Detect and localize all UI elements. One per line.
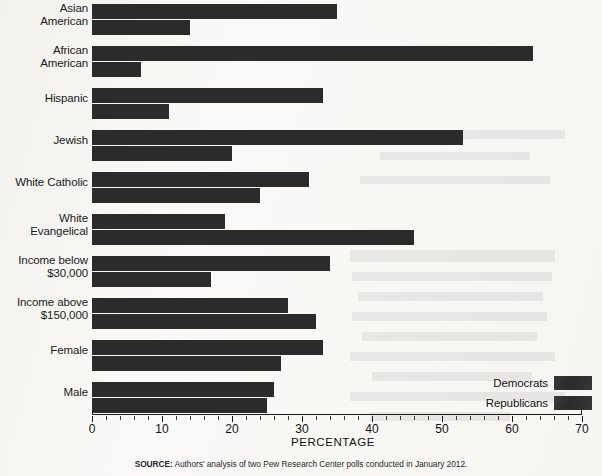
x-axis-minor-tick	[386, 416, 387, 420]
bar-democrats	[92, 172, 309, 187]
x-axis-tick-label: 10	[155, 422, 168, 436]
x-axis-tick-label: 40	[365, 422, 378, 436]
x-axis: 010203040506070	[92, 414, 582, 415]
legend-label-democrats: Democrats	[493, 377, 548, 389]
x-axis-tick-label: 50	[435, 422, 448, 436]
x-axis-title: PERCENTAGE	[0, 436, 602, 448]
bar-democrats	[92, 382, 274, 397]
source-label: SOURCE:	[135, 459, 173, 469]
legend-label-republicans: Republicans	[486, 397, 548, 409]
bar-group	[92, 298, 582, 329]
x-axis-minor-tick	[316, 416, 317, 420]
x-axis-title-text: PERCENTAGE	[291, 436, 375, 448]
x-axis-minor-tick	[456, 416, 457, 420]
plot-area	[92, 0, 582, 414]
x-axis-minor-tick	[218, 416, 219, 420]
x-axis-minor-tick	[554, 416, 555, 420]
category-label: Hispanic	[0, 92, 88, 105]
x-axis-minor-tick	[540, 416, 541, 420]
x-axis-minor-tick	[204, 416, 205, 420]
bar-republicans	[92, 272, 211, 287]
bar-group	[92, 88, 582, 119]
bar-democrats	[92, 46, 533, 61]
bar-republicans	[92, 146, 232, 161]
bar-democrats	[92, 88, 323, 103]
x-axis-minor-tick	[428, 416, 429, 420]
x-axis-minor-tick	[400, 416, 401, 420]
source-text: Authors' analysis of two Pew Research Ce…	[173, 459, 468, 469]
bar-republicans	[92, 104, 169, 119]
x-axis-minor-tick	[414, 416, 415, 420]
bar-group	[92, 340, 582, 371]
x-axis-minor-tick	[526, 416, 527, 420]
x-axis-minor-tick	[190, 416, 191, 420]
bar-democrats	[92, 298, 288, 313]
bar-republicans	[92, 62, 141, 77]
x-axis-tick-label: 0	[89, 422, 96, 436]
legend-swatch-democrats	[554, 376, 592, 390]
x-axis-minor-tick	[498, 416, 499, 420]
bar-republicans	[92, 314, 316, 329]
category-label: Income above $150,000	[0, 296, 88, 321]
bar-republicans	[92, 20, 190, 35]
horizontal-bar-chart: Asian AmericanAfrican AmericanHispanicJe…	[0, 0, 602, 476]
category-label: White Catholic	[0, 176, 88, 189]
legend-swatch-republicans	[554, 396, 592, 410]
x-axis-minor-tick	[134, 416, 135, 420]
bar-democrats	[92, 256, 330, 271]
bar-group	[92, 256, 582, 287]
category-label: Male	[0, 386, 88, 399]
bar-republicans	[92, 356, 281, 371]
category-label: Jewish	[0, 134, 88, 147]
bar-republicans	[92, 398, 267, 413]
chart-legend: Democrats Republicans	[470, 374, 592, 414]
bar-group	[92, 46, 582, 77]
bar-group	[92, 172, 582, 203]
source-note: SOURCE: Authors' analysis of two Pew Res…	[0, 459, 602, 469]
x-axis-minor-tick	[470, 416, 471, 420]
bar-democrats	[92, 340, 323, 355]
x-axis-minor-tick	[288, 416, 289, 420]
bar-republicans	[92, 230, 414, 245]
category-label: Female	[0, 344, 88, 357]
bar-democrats	[92, 130, 463, 145]
category-label: Income below $30,000	[0, 254, 88, 279]
x-axis-minor-tick	[484, 416, 485, 420]
bar-group	[92, 130, 582, 161]
bar-republicans	[92, 188, 260, 203]
x-axis-minor-tick	[568, 416, 569, 420]
x-axis-minor-tick	[246, 416, 247, 420]
x-axis-tick-label: 20	[225, 422, 238, 436]
x-axis-tick-label: 60	[505, 422, 518, 436]
x-axis-minor-tick	[330, 416, 331, 420]
x-axis-minor-tick	[260, 416, 261, 420]
legend-item-republicans: Republicans	[470, 394, 592, 411]
x-axis-tick-label: 70	[575, 422, 588, 436]
bar-group	[92, 214, 582, 245]
x-axis-minor-tick	[344, 416, 345, 420]
legend-item-democrats: Democrats	[470, 374, 592, 391]
x-axis-line	[92, 414, 582, 415]
category-label: Asian American	[0, 2, 88, 27]
x-axis-minor-tick	[148, 416, 149, 420]
x-axis-minor-tick	[106, 416, 107, 420]
x-axis-minor-tick	[358, 416, 359, 420]
category-axis-labels: Asian AmericanAfrican AmericanHispanicJe…	[0, 0, 88, 420]
x-axis-minor-tick	[274, 416, 275, 420]
category-label: African American	[0, 44, 88, 69]
x-axis-tick-label: 30	[295, 422, 308, 436]
category-label: White Evangelical	[0, 212, 88, 237]
bar-group	[92, 4, 582, 35]
x-axis-minor-tick	[120, 416, 121, 420]
bar-democrats	[92, 214, 225, 229]
bar-democrats	[92, 4, 337, 19]
x-axis-minor-tick	[176, 416, 177, 420]
